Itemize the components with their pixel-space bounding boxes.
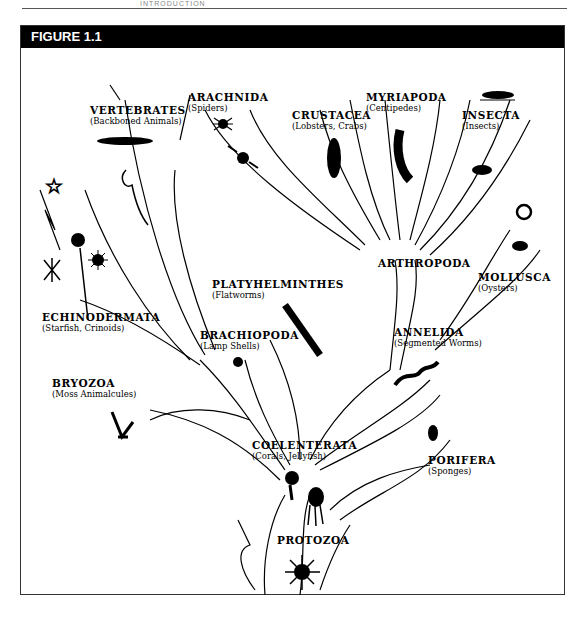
scorpion-icon [228,146,258,168]
segmented-worm-icon [395,362,438,385]
starfish-icon: ☆ [45,174,63,198]
sponge-icon [428,425,438,441]
seahorse-icon [122,170,148,225]
spider-icon [213,118,233,130]
bryozoan-icon [112,412,133,437]
grasshopper-icon [480,91,515,100]
brittle-star-icon [44,258,60,282]
fish-icon [97,137,153,145]
clam-icon [512,241,528,251]
lamp-shell-icon [233,357,243,367]
crinoid-icon [71,233,88,320]
ant-icon [472,165,492,175]
lobster-icon [327,138,341,178]
flatworm-icon [285,305,320,355]
radiolarian-icon [285,555,320,590]
jellyfish-icon [308,487,324,526]
sea-urchin-icon [88,250,108,270]
animal-illustrations: ☆ [0,0,581,637]
svg-text:☆: ☆ [45,174,63,198]
snail-icon [517,205,531,219]
coral-icon [285,471,299,500]
centipede-icon [398,130,410,180]
